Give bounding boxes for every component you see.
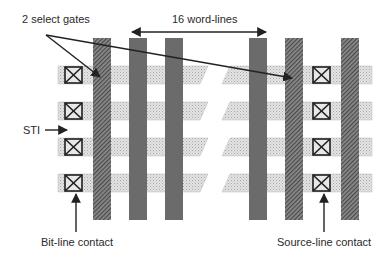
- sti-label: STI: [23, 124, 40, 136]
- annotation-arrows: [45, 32, 324, 232]
- select-gate-left: [93, 38, 111, 220]
- source-line-contacts: [313, 67, 330, 191]
- source-line-contact-label: Source-line contact: [277, 236, 371, 248]
- bit-line-contact-label: Bit-line contact: [41, 236, 113, 248]
- select-gate-far-right: [341, 38, 359, 220]
- select-gate-right: [285, 38, 303, 220]
- select-gates-label: 2 select gates: [22, 13, 90, 25]
- nand-array-diagram: 2 select gates 16 word-lines STI Bit-lin…: [0, 0, 392, 262]
- word-line-2: [165, 38, 183, 220]
- word-lines-label: 16 word-lines: [172, 13, 237, 25]
- bit-line-contacts: [65, 67, 82, 191]
- diagram-graphics: [0, 0, 392, 262]
- word-line-1: [129, 38, 147, 220]
- word-line-16: [249, 38, 267, 220]
